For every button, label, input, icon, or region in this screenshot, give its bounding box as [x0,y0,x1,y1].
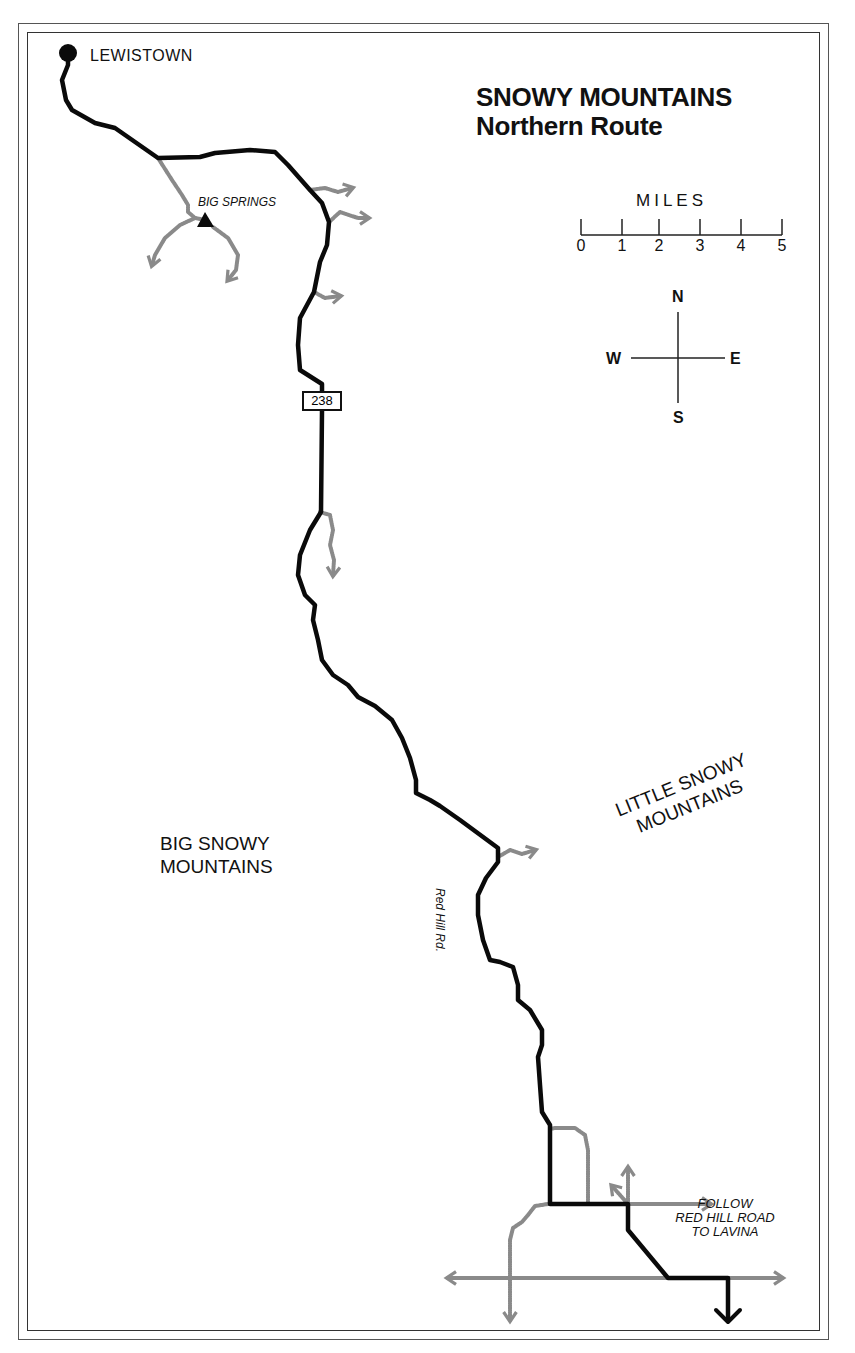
map-title-line2: Northern Route [476,112,732,141]
highway-238-shield: 238 [302,391,342,411]
main-route [62,55,740,1322]
scale-tick-3: 3 [696,237,705,255]
scale-tick-4: 4 [737,237,746,255]
label-big-snowy-mountains: BIG SNOWY MOUNTAINS [160,832,273,878]
scale-bar [581,219,782,235]
map-title-line1: SNOWY MOUNTAINS [476,83,732,112]
lewistown-marker-icon [59,44,77,62]
label-big-springs: BIG SPRINGS [198,195,276,209]
compass-south: S [673,409,684,427]
map-title: SNOWY MOUNTAINS Northern Route [476,83,732,141]
compass-north: N [672,288,684,306]
directions-note-line1: FOLLOW [660,1197,790,1211]
directions-note-line3: TO LAVINA [660,1225,790,1239]
label-big-snowy-line1: BIG SNOWY [160,832,273,855]
label-big-snowy-line2: MOUNTAINS [160,855,273,878]
route-map [0,0,855,1353]
compass-cross-icon [631,312,725,403]
directions-note: FOLLOW RED HILL ROAD TO LAVINA [660,1197,790,1239]
compass-east: E [730,350,741,368]
scale-tick-1: 1 [618,237,627,255]
label-lewistown: LEWISTOWN [90,47,193,65]
scale-tick-5: 5 [778,237,787,255]
compass-west: W [606,350,621,368]
scale-unit-label: MILES [636,191,707,211]
label-red-hill-rd: Red Hill Rd. [433,888,447,952]
scale-tick-2: 2 [655,237,664,255]
scale-tick-0: 0 [577,237,586,255]
side-roads [152,158,782,1320]
directions-note-line2: RED HILL ROAD [660,1211,790,1225]
